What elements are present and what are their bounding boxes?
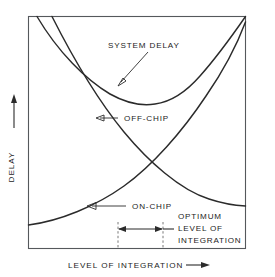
leader-system-delay xyxy=(118,52,148,86)
optimum-span-arrow xyxy=(118,226,163,232)
curve-system-delay xyxy=(37,17,246,105)
x-axis-arrow xyxy=(186,262,210,268)
leader-on-chip xyxy=(87,203,126,210)
chart-canvas: SYSTEM DELAY OFF-CHIP ON-CHIP OPTIMUM LE… xyxy=(0,0,275,277)
y-axis-arrow xyxy=(11,94,17,128)
curve-on-chip xyxy=(29,22,246,225)
y-axis-title: DELAY xyxy=(7,152,16,183)
figure-container: SYSTEM DELAY OFF-CHIP ON-CHIP OPTIMUM LE… xyxy=(0,0,275,277)
label-optimum-line2: LEVEL OF xyxy=(178,224,223,233)
label-system-delay: SYSTEM DELAY xyxy=(108,41,180,50)
label-optimum-line3: INTEGRATION xyxy=(178,236,242,245)
label-on-chip: ON-CHIP xyxy=(132,202,172,211)
label-off-chip: OFF-CHIP xyxy=(124,114,169,123)
x-axis-title: LEVEL OF INTEGRATION xyxy=(68,261,183,270)
label-optimum-line1: OPTIMUM xyxy=(178,212,222,221)
